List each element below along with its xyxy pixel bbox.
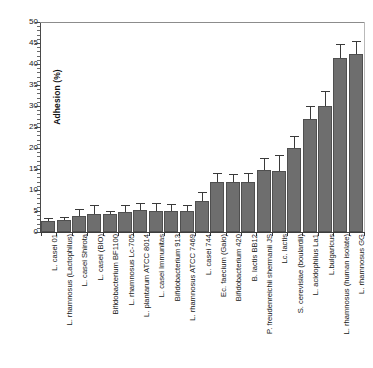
x-axis-label: B. lactis BB12 [251, 234, 259, 364]
x-axis-label: L. acidophilus La1 [312, 234, 320, 364]
x-axis-label: Lc. lactis [281, 234, 289, 364]
y-major-tick [35, 211, 40, 212]
error-bar-cap [352, 41, 361, 42]
y-minor-tick [37, 51, 40, 52]
bar [287, 148, 301, 232]
y-major-tick [35, 127, 40, 128]
y-minor-tick [37, 161, 40, 162]
y-minor-tick [37, 194, 40, 195]
error-bar-cap [106, 211, 115, 212]
bar [195, 201, 209, 233]
x-axis-label: L. casei Immunitas [158, 234, 166, 364]
x-axis-label: L. rhamnosus (Lactophilus) [66, 234, 74, 364]
error-bar-cap [75, 209, 84, 210]
adhesion-bar-chart: Adhesion (%) 05101520253035404550 L. cas… [0, 0, 373, 368]
y-minor-tick [37, 219, 40, 220]
error-bar-line [171, 205, 172, 210]
error-bar-cap [136, 203, 145, 204]
bar [133, 210, 147, 232]
x-axis-label: Ec. faecium (Gaio) [220, 234, 228, 364]
error-bar-line [110, 212, 111, 214]
y-minor-tick [37, 98, 40, 99]
x-axis-label: L. casei (BIO) [97, 234, 105, 364]
x-axis-category-labels: L. casei 01L. rhamnosus (Lactophilus)L. … [40, 236, 365, 368]
x-axis-label: Bifidobacterium BF1100 [112, 234, 120, 364]
y-minor-tick [37, 60, 40, 61]
error-bar-cap [198, 192, 207, 193]
y-minor-tick [37, 177, 40, 178]
y-major-tick [35, 85, 40, 86]
y-minor-tick [37, 77, 40, 78]
error-bar-line [217, 174, 218, 182]
error-bar-line [140, 204, 141, 210]
bar [72, 216, 86, 232]
y-minor-tick [37, 119, 40, 120]
error-bar-line [248, 174, 249, 182]
error-bar-line [187, 206, 188, 211]
bar [318, 106, 332, 232]
bar [103, 214, 117, 232]
y-minor-tick [37, 30, 40, 31]
y-minor-tick [37, 68, 40, 69]
error-bar-line [294, 137, 295, 148]
y-major-tick [35, 106, 40, 107]
x-axis-label: L. casei 744 [205, 234, 213, 364]
y-minor-tick [37, 102, 40, 103]
error-bar-cap [275, 155, 284, 156]
error-bar-cap [121, 205, 130, 206]
error-bar-line [94, 206, 95, 213]
error-bar-line [340, 45, 341, 58]
bar [303, 119, 317, 232]
y-major-tick [35, 43, 40, 44]
y-minor-tick [37, 26, 40, 27]
y-minor-tick [37, 186, 40, 187]
error-bar-line [279, 156, 280, 171]
y-minor-tick [37, 93, 40, 94]
error-bar-line [64, 218, 65, 220]
x-axis-label: L. rhamnosus ATCC 7469 [189, 234, 197, 364]
y-axis-tick-labels: 05101520253035404550 [14, 16, 38, 232]
bar [257, 170, 271, 232]
x-axis-label: Bifidobacterium 913 [174, 234, 182, 364]
error-bar-cap [260, 158, 269, 159]
x-axis-label: L. casei 01 [51, 234, 59, 364]
bar [272, 171, 286, 232]
error-bar-cap [213, 173, 222, 174]
x-axis-label: P. freudenreichii shermanii JS [266, 234, 274, 364]
error-bar-cap [290, 136, 299, 137]
x-axis-label: L. casei Shirota [81, 234, 89, 364]
x-axis-line [40, 232, 365, 233]
y-minor-tick [37, 114, 40, 115]
y-minor-tick [37, 144, 40, 145]
error-bar-cap [306, 106, 315, 107]
bar [241, 182, 255, 232]
y-minor-tick [37, 39, 40, 40]
error-bar-cap [90, 205, 99, 206]
error-bar-line [325, 92, 326, 106]
bar [87, 214, 101, 232]
x-axis-label: S. cerevisiae (boulardii) [297, 234, 305, 364]
error-bar-line [48, 219, 49, 222]
x-axis-label: L. rhamnosus (human isolate) [343, 234, 351, 364]
bar [41, 221, 55, 232]
bar [164, 211, 178, 232]
y-minor-tick [37, 207, 40, 208]
x-axis-label: L. rhamnosus Lc-705 [128, 234, 136, 364]
bar [210, 182, 224, 232]
y-minor-tick [37, 123, 40, 124]
x-axis-label: L. rhamnosus GG [358, 234, 366, 364]
error-bar-line [233, 175, 234, 182]
error-bar-line [125, 206, 126, 211]
y-minor-tick [37, 203, 40, 204]
y-minor-tick [37, 110, 40, 111]
y-minor-tick [37, 215, 40, 216]
error-bar-line [310, 107, 311, 120]
bar [180, 211, 194, 232]
y-minor-tick [37, 228, 40, 229]
y-minor-tick [37, 156, 40, 157]
bar [57, 220, 71, 232]
y-minor-tick [37, 173, 40, 174]
error-bar-cap [244, 173, 253, 174]
plot-area [41, 22, 364, 232]
y-minor-tick [37, 81, 40, 82]
